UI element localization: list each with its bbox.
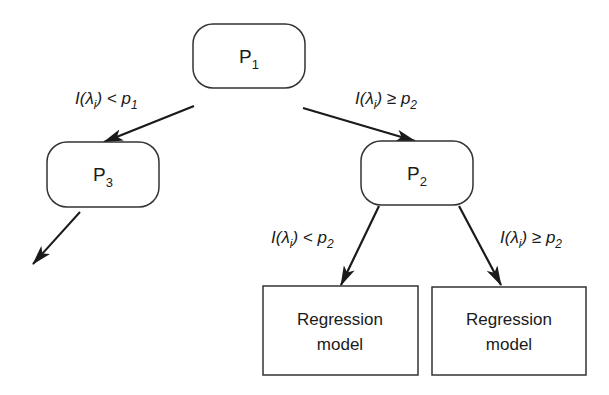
edge-label-p1-to-p2: I(λi) ≥ p2 xyxy=(355,89,417,112)
edge-p3-to-continuation xyxy=(33,212,80,264)
edge-label-p2-to-leaf-left: I(λi) < p2 xyxy=(271,228,334,251)
node-p2-subscript: 2 xyxy=(420,174,427,189)
decision-tree-diagram: P1 P3 P2 Regression model Regression mod… xyxy=(0,0,609,395)
node-p2: P2 xyxy=(361,141,473,205)
edge-p2-to-leaf-left xyxy=(341,206,379,285)
node-p1-subscript: 1 xyxy=(252,57,259,72)
leaf-right-line2: model xyxy=(486,335,532,354)
leaf-right-line1: Regression xyxy=(466,310,552,329)
leaf-left-line1: Regression xyxy=(297,310,383,329)
node-p3-subscript: 3 xyxy=(106,175,113,190)
leaf-regression-model-right: Regression model xyxy=(432,287,586,375)
node-p3: P3 xyxy=(47,142,159,207)
leaf-regression-model-left: Regression model xyxy=(263,286,418,375)
node-p1: P1 xyxy=(193,24,305,88)
node-p2-label: P xyxy=(407,163,420,184)
edge-p1-to-p2 xyxy=(303,108,415,141)
edge-p1-to-p3 xyxy=(104,106,194,142)
node-p3-label: P xyxy=(93,164,106,185)
edge-label-p2-to-leaf-right: I(λi) ≥ p2 xyxy=(500,228,562,251)
edge-p2-to-leaf-right xyxy=(459,206,501,285)
edge-label-p1-to-p3: I(λi) < p1 xyxy=(75,89,138,112)
node-p1-label: P xyxy=(239,46,252,67)
leaf-left-line2: model xyxy=(317,335,363,354)
